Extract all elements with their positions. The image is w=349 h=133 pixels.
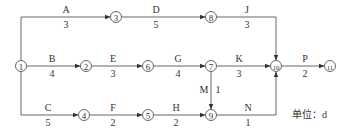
- activity-D-name: D: [152, 4, 159, 15]
- node-5-label: 5: [146, 111, 151, 121]
- unit-label: 单位：d: [292, 108, 327, 120]
- activity-C-name: C: [45, 102, 52, 113]
- activity-K-duration: 3: [237, 68, 242, 79]
- activity-A-duration: 3: [64, 19, 69, 30]
- activity-H-duration: 2: [174, 117, 179, 128]
- network-diagram: 1 2 3 4 5 6 7 8 9 10 11 A 3 D 5 J 3 B 4 …: [0, 0, 349, 133]
- node-2-label: 2: [84, 62, 89, 72]
- activity-E-duration: 3: [111, 68, 116, 79]
- node-9-label: 9: [209, 111, 214, 121]
- activity-M-name: M: [200, 84, 209, 95]
- node-10-label: 10: [273, 64, 281, 72]
- activity-E-name: E: [110, 53, 116, 64]
- activity-B-name: B: [49, 53, 56, 64]
- activity-G-duration: 4: [176, 68, 181, 79]
- activity-B-duration: 4: [50, 68, 55, 79]
- node-7-label: 7: [209, 62, 214, 72]
- activity-P-name: P: [302, 53, 308, 64]
- activity-P-duration: 2: [303, 68, 308, 79]
- activity-F-name: F: [110, 102, 116, 113]
- activity-C-duration: 5: [46, 117, 51, 128]
- node-1-label: 1: [19, 62, 24, 72]
- activity-A-name: A: [62, 4, 70, 15]
- activity-G-name: G: [174, 53, 181, 64]
- activity-F-duration: 2: [111, 117, 116, 128]
- activity-M-duration: 1: [216, 84, 221, 95]
- activity-N-name: N: [244, 102, 251, 113]
- node-3-label: 3: [114, 13, 119, 23]
- activity-J-name: J: [245, 4, 249, 15]
- activity-H-name: H: [172, 102, 179, 113]
- activity-J-duration: 3: [245, 19, 250, 30]
- node-6-label: 6: [146, 62, 151, 72]
- activity-K-name: K: [235, 53, 243, 64]
- node-8-label: 8: [209, 13, 214, 23]
- activity-N-duration: 1: [246, 117, 251, 128]
- node-11-label: 11: [327, 64, 334, 72]
- activity-D-duration: 5: [154, 19, 159, 30]
- node-4-label: 4: [82, 111, 87, 121]
